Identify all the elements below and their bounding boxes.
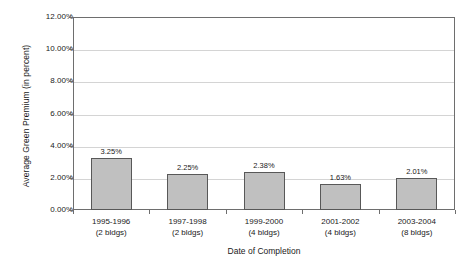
x-axis-category-label: 2001-2002(4 bldgs) <box>296 216 384 238</box>
x-axis-category-name: 1997-1998 <box>144 216 232 227</box>
y-axis-tick-label: 8.00% <box>29 77 73 85</box>
gridline <box>74 82 454 83</box>
x-axis-tick-mark <box>455 210 456 214</box>
bar <box>167 174 208 210</box>
y-axis-tick-label: 2.00% <box>29 174 73 182</box>
x-axis-category-sublabel: (4 bldgs) <box>220 227 308 238</box>
gridline <box>74 115 454 116</box>
y-axis-tick-label: 6.00% <box>29 110 73 118</box>
y-axis-tick-label: 12.00% <box>29 13 73 21</box>
bar <box>91 158 132 210</box>
x-axis-category-label: 1997-1998(2 bldgs) <box>144 216 232 238</box>
x-axis-tick-mark <box>302 210 303 214</box>
x-axis-tick-mark <box>73 210 74 214</box>
y-axis-ticks: 0.00%2.00%4.00%6.00%8.00%10.00%12.00% <box>23 0 73 274</box>
x-axis-category-sublabel: (2 bldgs) <box>67 227 155 238</box>
x-axis-category-name: 1999-2000 <box>220 216 308 227</box>
bar <box>396 178 437 210</box>
bar-value-label: 1.63% <box>310 173 370 182</box>
x-axis-category-sublabel: (4 bldgs) <box>296 227 384 238</box>
x-axis-tick-mark <box>149 210 150 214</box>
x-axis-tick-mark <box>226 210 227 214</box>
x-axis-category-name: 1995-1996 <box>67 216 155 227</box>
gridline <box>74 50 454 51</box>
x-axis-category-sublabel: (8 bldgs) <box>373 227 461 238</box>
x-axis-category-label: 1999-2000(4 bldgs) <box>220 216 308 238</box>
bar-value-label: 2.25% <box>158 163 218 172</box>
bar-value-label: 2.38% <box>234 161 294 170</box>
x-axis-tick-mark <box>379 210 380 214</box>
x-axis-title: Date of Completion <box>73 246 455 257</box>
y-axis-tick-label: 0.00% <box>29 206 73 214</box>
bar-value-label: 2.01% <box>387 167 447 176</box>
bar-chart: Average Green Premium (in percent) 0.00%… <box>0 0 475 274</box>
y-axis-tick-label: 10.00% <box>29 45 73 53</box>
x-axis-category-sublabel: (2 bldgs) <box>144 227 232 238</box>
y-axis-tick-label: 4.00% <box>29 142 73 150</box>
x-axis-category-name: 2001-2002 <box>296 216 384 227</box>
bar-value-label: 3.25% <box>81 147 141 156</box>
x-axis-category-name: 2003-2004 <box>373 216 461 227</box>
bar <box>244 172 285 210</box>
x-axis-category-label: 2003-2004(8 bldgs) <box>373 216 461 238</box>
bar <box>320 184 361 210</box>
x-axis-category-label: 1995-1996(2 bldgs) <box>67 216 155 238</box>
